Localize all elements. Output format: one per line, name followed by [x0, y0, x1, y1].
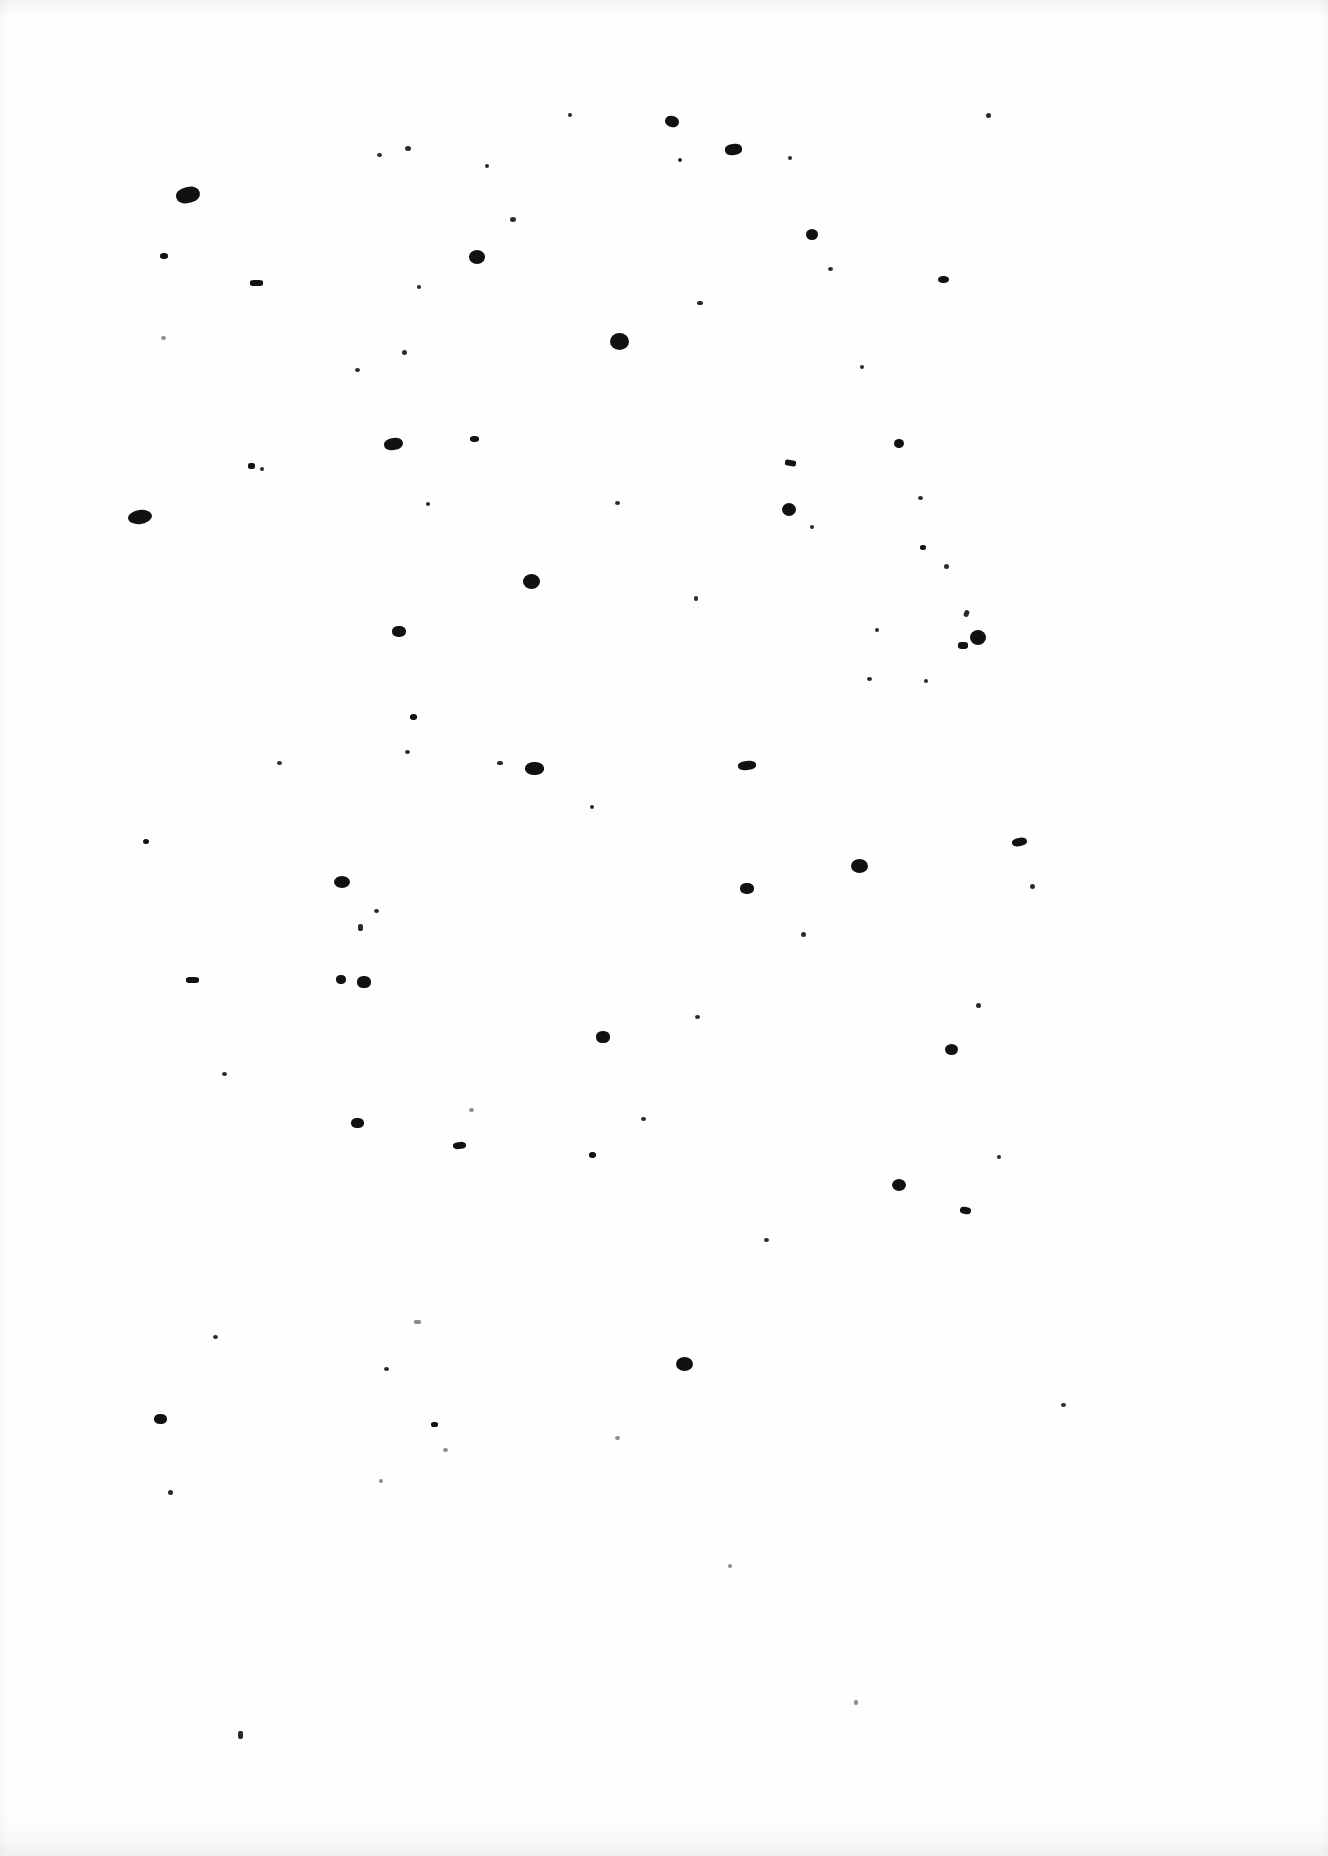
ink-speck [782, 503, 796, 516]
ink-speck [810, 525, 814, 529]
ink-speck [405, 750, 410, 754]
ink-speck [443, 1448, 448, 1452]
ink-speck [920, 545, 926, 550]
ink-speck [410, 714, 417, 720]
ink-speck [788, 156, 792, 160]
ink-speck [892, 1179, 906, 1191]
ink-speck [168, 1490, 173, 1495]
ink-speck [695, 1015, 700, 1019]
ink-speck [945, 1044, 958, 1055]
ink-speck [697, 301, 703, 305]
ink-speck [405, 146, 411, 151]
ink-speck [248, 463, 255, 469]
ink-speck [854, 1700, 858, 1705]
ink-speck [414, 1320, 421, 1324]
ink-speck [355, 368, 360, 372]
ink-speck [358, 924, 363, 931]
ink-speck [384, 1367, 389, 1371]
ink-speck [851, 859, 868, 873]
ink-speck [615, 501, 620, 505]
ink-speck [641, 1117, 646, 1121]
ink-speck [959, 1206, 971, 1215]
ink-speck [970, 630, 986, 645]
ink-speck [589, 1152, 596, 1158]
ink-speck [1061, 1403, 1066, 1407]
ink-speck [417, 285, 421, 289]
ink-speck [277, 761, 282, 765]
ink-speck [260, 467, 264, 471]
ink-speck [186, 977, 199, 983]
ink-speck [1030, 884, 1035, 889]
ink-speck [357, 976, 371, 988]
ink-speck [676, 1357, 693, 1371]
ink-speck [469, 250, 485, 264]
ink-speck [806, 229, 818, 240]
ink-speck [351, 1118, 364, 1128]
ink-speck [610, 333, 629, 350]
ink-speck [740, 883, 754, 894]
ink-speck [336, 975, 346, 984]
ink-speck [392, 626, 406, 637]
ink-speck [469, 1108, 474, 1112]
ink-speck [523, 574, 540, 589]
ink-speck [764, 1238, 769, 1242]
ink-speck [875, 628, 879, 632]
ink-speck [590, 805, 594, 809]
ink-speck [860, 365, 864, 369]
ink-speck [379, 1479, 383, 1483]
ink-speck [238, 1731, 243, 1739]
ink-speck [568, 113, 572, 117]
ink-speck [161, 336, 166, 340]
ink-speck [986, 113, 991, 118]
ink-speck [374, 909, 379, 913]
ink-speck [938, 276, 949, 283]
ink-speck [958, 642, 968, 649]
ink-speck [801, 932, 806, 937]
ink-speck [694, 596, 698, 601]
ink-speck [334, 876, 350, 888]
ink-speck [213, 1335, 218, 1339]
ink-speck [431, 1422, 438, 1427]
ink-speck [377, 153, 382, 157]
ink-speck [143, 839, 149, 844]
ink-speck [738, 760, 757, 771]
ink-speck [525, 762, 544, 775]
ink-speck [154, 1414, 167, 1424]
ink-speck [867, 677, 872, 681]
ink-speck [944, 564, 949, 569]
ink-speck [596, 1031, 610, 1043]
ink-speck [485, 164, 489, 168]
ink-speck [470, 436, 479, 442]
ink-speck [497, 761, 503, 765]
ink-speck [250, 280, 263, 286]
ink-speck [997, 1155, 1001, 1159]
ink-speck [918, 496, 923, 500]
ink-speck [160, 253, 168, 259]
ink-speck [828, 267, 833, 271]
ink-speck [678, 158, 682, 162]
ink-speck [615, 1436, 620, 1440]
ink-speck [924, 679, 928, 683]
ink-speck [510, 217, 516, 222]
ink-speck [452, 1141, 466, 1149]
ink-speck [402, 350, 407, 355]
paper-surface [0, 0, 1328, 1856]
ink-speck [894, 439, 904, 448]
ink-speck [426, 502, 430, 506]
ink-speck [222, 1072, 227, 1076]
ink-speck [976, 1003, 981, 1008]
scanned-page [0, 0, 1328, 1856]
ink-speck [728, 1564, 732, 1568]
